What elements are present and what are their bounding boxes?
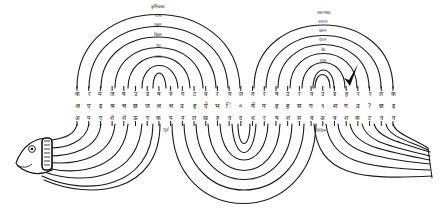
arch-label: एकम (154, 22, 162, 27)
letter-cell: ड (145, 90, 150, 97)
neck-lines (42, 124, 160, 190)
letter-cell: क (156, 114, 161, 121)
snake-head (16, 138, 52, 173)
letter-cell: व (310, 90, 314, 97)
letter-cell: व (228, 114, 232, 121)
letter-cell: त (251, 90, 255, 97)
letter-cell: क (75, 90, 80, 97)
letter-cell: प (262, 102, 266, 110)
letter-cell: ट (368, 114, 372, 121)
letter-cell: ग (181, 90, 185, 97)
letter-cell: छ (133, 102, 138, 110)
serpent-diagram: कृत्तिकाद्य पञ्च एकम विहस पंच सप्त उत्तर… (0, 0, 445, 208)
letter-cell: इ (392, 102, 396, 110)
letter-cell: प (87, 114, 91, 121)
snake-tail (314, 124, 432, 178)
letter-cell: ष (275, 90, 279, 97)
letter-cell: ल (239, 90, 244, 97)
letter-cell: उ (180, 102, 184, 110)
letter-cell: र (263, 90, 266, 97)
letter-cell: ध (251, 114, 255, 121)
letter-cell: शे (110, 114, 115, 121)
letter-cell: ग (309, 102, 313, 110)
letter-cell: उ (134, 90, 138, 97)
lower-label-right: पश्चिम (314, 127, 326, 133)
letter-cell: स (297, 114, 302, 121)
letter-cell: व (392, 114, 396, 121)
arch-label: विहस (154, 32, 162, 37)
letter-cell: ए (87, 102, 91, 110)
letter-cell: ब (333, 114, 337, 121)
letter-cell: छ (379, 102, 384, 110)
arch-label: सप्त (155, 54, 162, 59)
letter-cell: ह (216, 114, 220, 121)
letter-cell: ल (192, 114, 197, 121)
letter-cell: उ (321, 90, 325, 97)
letter-cell: ये (251, 102, 255, 110)
letter-cell: ख (203, 114, 208, 121)
letter-cell: न (181, 114, 185, 121)
letter-cell: अ (320, 114, 325, 121)
arch-label: पंच (156, 43, 161, 48)
letter-cell: इ (99, 102, 103, 110)
letter-cell: श (333, 102, 338, 110)
letter-cell: ड (332, 90, 337, 97)
letter-row-middle: अएइश्रचछजअथउहऐभि०येपहहसग९शगउ?छइ (75, 102, 396, 110)
letter-cell: च (122, 102, 127, 110)
letter-cell: अ (75, 114, 80, 121)
letter-cell: उ (356, 102, 360, 110)
letter-cell: प (169, 114, 173, 121)
arch-label: उत्तराषाढ (317, 10, 331, 15)
letter-cell: ज (145, 102, 150, 110)
letter-cell: ह (345, 90, 349, 97)
letter-cell: अ (75, 102, 81, 110)
letter-cell: ट (193, 90, 197, 97)
letter-cell: क (355, 114, 360, 121)
letter-cell: रु (169, 90, 173, 97)
letter-cell: ष (157, 90, 161, 97)
letter-cell: भ (215, 102, 220, 110)
letter-cell: र (88, 90, 91, 97)
letter-cell: र (298, 90, 301, 97)
arch-label: पंचम (319, 37, 327, 42)
letter-cell: ज (110, 90, 115, 97)
letter-cell: द (239, 114, 243, 121)
letter-cell: ब (204, 90, 208, 97)
letter-cell: व (380, 114, 384, 121)
letter-cell: शे (122, 114, 127, 121)
letter-cell: स (297, 102, 302, 110)
letter-cell: र (369, 90, 372, 97)
lower-label-left: पूर्व (163, 126, 170, 133)
letter-cell: क (391, 90, 396, 97)
letter-cell: ० (239, 102, 242, 110)
letter-cell: र (357, 90, 360, 97)
arch-label: पञ्च (155, 13, 162, 18)
right-upper-arches (254, 25, 393, 88)
letter-cell: अ (156, 102, 162, 110)
letter-cell: श (344, 114, 349, 121)
letter-cell: श्र (110, 102, 115, 110)
arch-label: वेद (321, 47, 326, 52)
letter-cell: ह (275, 102, 279, 110)
letter-cell: य (228, 90, 232, 97)
arch-label: कृत्तिकाद्य (151, 4, 165, 10)
arch-label: पञ्चम (318, 19, 328, 24)
letter-cell: ब (310, 114, 314, 121)
letter-cell: ह (286, 102, 290, 110)
arch-label: सप्त (320, 58, 327, 63)
letter-cell: उ (286, 90, 290, 97)
letter-row-bottom: अपएशेशेऊएकपनलखहवदधरषशसबअबशकटवव (75, 114, 396, 121)
letter-cell: ? (368, 102, 371, 110)
letter-cell: र (216, 90, 219, 97)
letter-cell: थ (169, 102, 174, 110)
center-lower-arches (172, 124, 316, 204)
letter-cell: ष (122, 90, 126, 97)
letter-cell: ९ (321, 102, 324, 110)
letter-cell: ि (226, 102, 232, 110)
letter-cell: श (286, 114, 291, 121)
letter-cell: ऐ (204, 102, 208, 110)
arch-labels-right: उत्तराषाढ पञ्चम दशम पंचम वेद सप्त (317, 10, 331, 63)
arch-labels-left: कृत्तिकाद्य पञ्च एकम विहस पंच सप्त (151, 4, 165, 59)
letter-row-top: करमजषउडषरुगटबरयलतरषउरवउडहररलक (75, 90, 396, 97)
letter-cell: ह (193, 102, 197, 110)
